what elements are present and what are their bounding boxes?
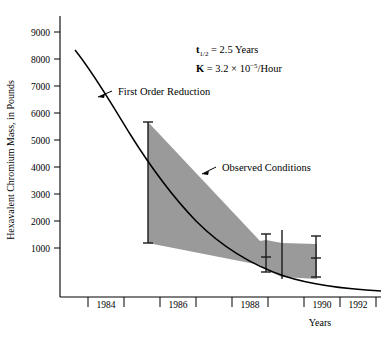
y-axis-ticks xyxy=(54,32,60,248)
x-axis-ticks xyxy=(88,297,376,307)
y-axis-tick-labels: 9000 8000 7000 6000 5000 4000 3000 2000 … xyxy=(31,28,50,254)
arrow-head-icon xyxy=(98,94,105,98)
y-tick-label: 5000 xyxy=(31,136,50,146)
rate-constant-equation-b: /Hour xyxy=(258,63,283,74)
y-tick-label: 1000 xyxy=(31,244,50,254)
band-step-c xyxy=(282,243,317,279)
observed-conditions-band xyxy=(148,122,317,279)
y-tick-label: 3000 xyxy=(31,190,50,200)
x-tick-label: 1984 xyxy=(97,300,116,310)
x-axis-title: Years xyxy=(309,317,331,328)
y-tick-label: 2000 xyxy=(31,217,50,227)
first-order-leader xyxy=(98,91,112,98)
y-tick-label: 4000 xyxy=(31,163,50,173)
chart-figure: 9000 8000 7000 6000 5000 4000 3000 2000 … xyxy=(0,0,389,341)
y-tick-label: 8000 xyxy=(31,55,50,65)
half-life-equation: = 2.5 Years xyxy=(208,44,258,55)
x-tick-label: 1986 xyxy=(169,300,188,310)
band-step-a xyxy=(260,240,266,270)
y-tick-label: 9000 xyxy=(31,28,50,38)
rate-constant-annotation: K = 3.2 × 10−5/Hour xyxy=(196,62,283,74)
rate-constant-equation-a: = 3.2 × 10 xyxy=(204,63,250,74)
first-order-reduction-label: First Order Reduction xyxy=(118,86,211,97)
band-upper-wedge xyxy=(148,122,260,265)
y-tick-label: 6000 xyxy=(31,109,50,119)
observed-conditions-label: Observed Conditions xyxy=(222,162,311,173)
chart-canvas: 9000 8000 7000 6000 5000 4000 3000 2000 … xyxy=(0,0,389,341)
y-axis-title: Hexavalent Chromium Mass, in Pounds xyxy=(5,80,16,240)
x-tick-label: 1990 xyxy=(313,300,332,310)
half-life-annotation: t1/2 = 2.5 Years xyxy=(196,44,258,58)
x-tick-label: 1992 xyxy=(349,300,368,310)
y-tick-label: 7000 xyxy=(31,82,50,92)
observed-conditions-leader xyxy=(202,167,216,175)
x-tick-label: 1988 xyxy=(241,300,260,310)
